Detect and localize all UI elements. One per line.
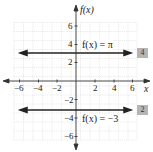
y-tick-label: 2 (68, 58, 73, 67)
equation-label-minus-3: f(x) = −3 (82, 114, 118, 124)
line-f-pi (20, 51, 131, 56)
line-f-minus-3 (20, 108, 131, 113)
y-tick-label: −4 (64, 114, 74, 123)
coordinate-plane (0, 0, 153, 152)
y-axis-label: f(x) (80, 5, 94, 15)
graph-figure: f(x) x −6 −4 −2 2 4 6 6 4 2 −2 −4 −6 f(x… (0, 0, 153, 152)
x-tick-label: −6 (14, 84, 24, 93)
equation-label-pi: f(x) = π (82, 40, 113, 50)
x-tick-label: 2 (93, 84, 98, 93)
x-tick-label: 4 (112, 84, 117, 93)
x-tick-label: −2 (52, 84, 62, 93)
badge-2: 2 (137, 105, 148, 115)
y-tick-label: 4 (68, 40, 73, 49)
y-tick-label: −2 (64, 96, 74, 105)
badge-4: 4 (137, 48, 148, 58)
x-tick-label: 6 (130, 84, 135, 93)
y-tick-label: 6 (68, 22, 73, 31)
x-axis-label: x (144, 84, 148, 94)
x-tick-label: −4 (33, 84, 43, 93)
y-tick-label: −6 (64, 132, 74, 141)
